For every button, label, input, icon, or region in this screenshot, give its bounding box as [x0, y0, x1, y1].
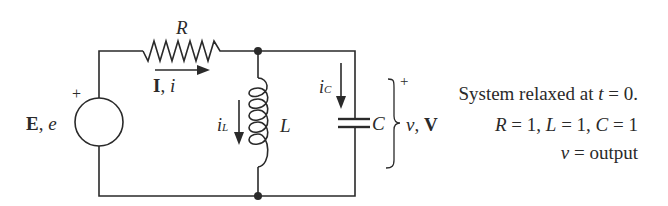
main-current-label: I, i — [153, 76, 175, 95]
voltage-source — [75, 98, 123, 146]
source-label: E, e — [26, 114, 57, 133]
output-brace — [386, 79, 400, 168]
inductor-coil — [249, 78, 268, 167]
inductor-label: L — [280, 116, 291, 135]
resistor — [143, 41, 222, 61]
resistor-label: R — [176, 18, 188, 37]
junction-node-bottom — [254, 192, 262, 200]
arrow-main-current — [197, 65, 210, 75]
inductor-current-label: iL — [217, 116, 228, 134]
capacitor-current-label: iC — [319, 78, 331, 96]
arrow-inductor-current — [234, 132, 244, 145]
note-output: v = output — [561, 143, 638, 162]
capacitor-label: C — [372, 114, 385, 133]
junction-node-top — [254, 47, 262, 55]
arrow-capacitor-current — [336, 96, 346, 109]
wire-left-top — [99, 51, 143, 98]
output-plus-sign: + — [400, 74, 408, 89]
wire-top-right — [222, 51, 355, 119]
output-voltage-label: v, V — [406, 115, 438, 134]
source-plus-sign: + — [72, 86, 81, 102]
wire-left-bottom — [99, 127, 355, 196]
note-parameters: R = 1, L = 1, C = 1 — [495, 115, 638, 134]
note-relaxed: System relaxed at t = 0. — [458, 84, 638, 103]
